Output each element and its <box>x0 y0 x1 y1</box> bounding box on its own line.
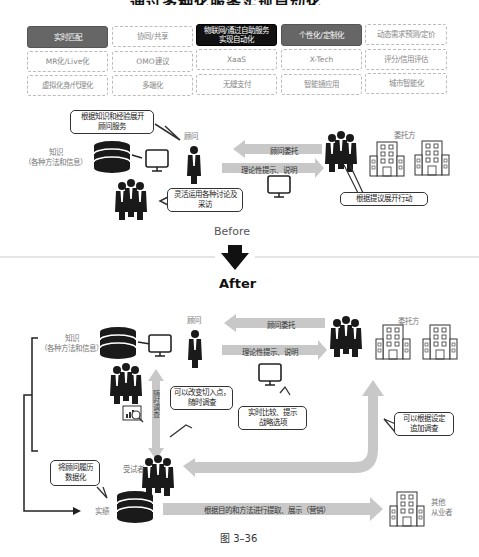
bubble-additional: 可以根据设定 追加调查 <box>394 412 454 436</box>
team-icon <box>110 363 142 404</box>
building-icon <box>390 492 424 526</box>
arrow-theory-label: 理论性提示、说明 <box>222 164 315 175</box>
figure-caption: 图 3–36 <box>220 530 257 545</box>
bubble-change-entry: 可以改变切入点， 随时调查 <box>170 386 233 410</box>
other-practitioners-label: 其他 从业者 <box>431 498 452 518</box>
monitor-icon <box>268 176 290 197</box>
building-icon <box>415 141 449 175</box>
arrow-extract-label: 根据目的和方法进行提取、展示（营销） <box>163 504 370 515</box>
knowledge-label: 知识 （各种方法和信息） <box>24 148 87 168</box>
arrow-theory-label: 理论性提示、说明 <box>222 346 318 357</box>
building-icon <box>376 325 410 359</box>
arrow-commission-label: 顾问委托 <box>236 319 325 330</box>
building-icon <box>370 142 404 176</box>
database-icon <box>94 141 130 173</box>
bubble-discussion: 灵活运用各种讨论及 采访 <box>167 188 243 212</box>
bracket <box>32 338 38 451</box>
client-label: 委托方 <box>398 317 419 327</box>
monitor-icon <box>146 150 168 171</box>
database-icon <box>100 327 136 359</box>
consultant-icon <box>187 146 201 184</box>
database-icon <box>117 491 153 523</box>
vertical-arrow-label: 随时调查 <box>152 390 160 418</box>
consultant-icon <box>188 330 202 368</box>
monitor-icon <box>259 364 281 385</box>
monitor-icon <box>149 335 171 356</box>
bubble-action: 根据提议展开行动 <box>340 192 428 206</box>
team-icon <box>115 179 147 220</box>
knowledge-label: 知识 （各种方法和信息） <box>40 334 103 354</box>
bubble-knowledge-service: 根据知识和经验展开 顾问服务 <box>70 110 154 134</box>
bubble-realtime: 实时比较、提示 战略选项 <box>238 406 307 430</box>
record-label: 实绩 <box>95 507 109 517</box>
consultant-label: 顾问 <box>184 132 198 142</box>
respondent-icon <box>142 455 174 496</box>
down-arrow-icon <box>221 245 249 270</box>
consultant-label: 顾问 <box>187 316 201 326</box>
arrow-commission-label: 顾问委托 <box>245 145 322 156</box>
analytics-icon <box>123 406 143 422</box>
before-label: Before <box>214 225 250 238</box>
arrow-head-icon <box>73 507 81 515</box>
bubble-datafy: 将顾问履历 数据化 <box>50 460 100 486</box>
client-team-icon <box>325 131 357 172</box>
building-icon <box>423 325 457 359</box>
respondent-label: 受试者 <box>123 465 144 475</box>
client-label: 委托方 <box>394 131 415 141</box>
client-team-icon <box>330 316 362 357</box>
after-label: After <box>219 276 256 291</box>
